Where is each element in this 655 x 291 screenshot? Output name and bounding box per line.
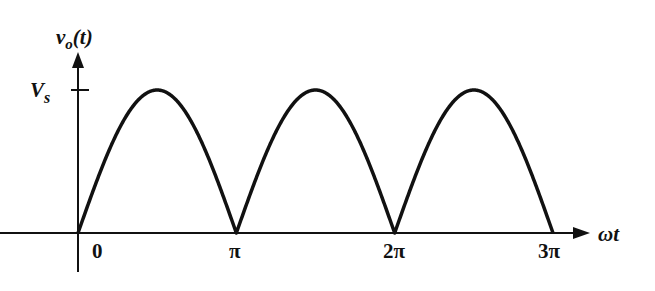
x-axis-arrow-icon xyxy=(573,227,590,239)
x-tick-2pi: 2π xyxy=(383,239,406,263)
x-axis-label: ωt xyxy=(598,222,620,246)
peak-label: Vs xyxy=(30,78,50,106)
rectifier-waveform-diagram: vo(t) Vs ωt 0 π 2π 3π xyxy=(0,0,655,291)
x-tick-0: 0 xyxy=(92,239,103,263)
waveform-curve xyxy=(78,90,553,233)
y-axis-arrow-icon xyxy=(72,52,84,68)
y-axis-label: vo(t) xyxy=(56,25,93,52)
x-tick-3pi: 3π xyxy=(538,239,561,263)
x-tick-pi: π xyxy=(229,239,241,263)
